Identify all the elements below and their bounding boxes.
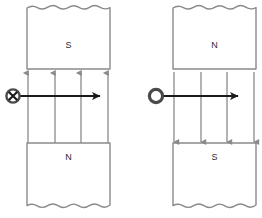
left-bottom-magnet: N (27, 143, 110, 207)
right-field-lines (174, 72, 254, 142)
right-bottom-magnet-label: S (211, 152, 217, 162)
panel-right: N S (131, 0, 262, 218)
current-into-page-icon (6, 89, 19, 102)
current-out-of-page-icon (149, 89, 162, 102)
left-top-magnet: S (27, 6, 110, 69)
panel-left: S N (0, 0, 131, 218)
right-diagram-svg: N S (131, 0, 262, 218)
left-diagram-svg: S N (0, 0, 131, 218)
right-bottom-magnet: S (173, 143, 256, 207)
left-top-magnet-label: S (65, 40, 71, 50)
left-field-lines (28, 73, 108, 143)
left-bottom-magnet-label: N (65, 152, 72, 162)
diagram-canvas: S N (0, 0, 262, 218)
right-top-magnet-label: N (211, 40, 218, 50)
right-top-magnet: N (173, 6, 256, 69)
